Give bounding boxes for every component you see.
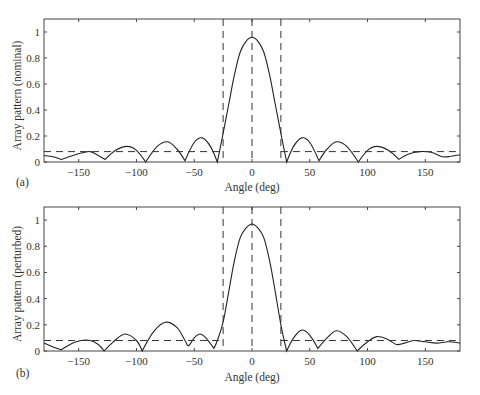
x-axis-title: Angle (deg) xyxy=(224,371,279,384)
x-tick-label: −100 xyxy=(125,355,148,367)
y-tick-label: 0 xyxy=(35,345,41,357)
y-tick-label: 0.2 xyxy=(26,130,40,142)
y-tick-label: 0.8 xyxy=(26,240,40,252)
y-tick-label: 0.8 xyxy=(26,52,40,64)
panel-b: −150−100−5005010015000.20.40.60.81Angle … xyxy=(11,207,460,384)
y-tick-label: 1 xyxy=(35,214,41,226)
y-axis-title: Array pattern (nominal) xyxy=(11,40,24,150)
y-tick-label: 0 xyxy=(35,156,41,168)
y-tick-label: 0.6 xyxy=(26,266,40,278)
x-tick-label: 50 xyxy=(304,355,316,367)
x-tick-label: 100 xyxy=(359,355,376,367)
x-tick-label: −50 xyxy=(186,355,204,367)
x-tick-label: 0 xyxy=(249,355,255,367)
chart-canvas: −150−100−5005010015000.20.40.60.81Angle … xyxy=(0,0,480,395)
panel-a: −150−100−5005010015000.20.40.60.81Angle … xyxy=(11,19,460,194)
x-tick-label: −150 xyxy=(67,166,90,178)
x-tick-label: 150 xyxy=(417,355,434,367)
panel-label: (a) xyxy=(16,176,29,189)
panel-label: (b) xyxy=(16,367,30,380)
y-tick-label: 0.6 xyxy=(26,78,40,90)
y-tick-label: 0.2 xyxy=(26,319,40,331)
x-tick-label: 150 xyxy=(417,166,434,178)
x-tick-label: −100 xyxy=(125,166,148,178)
x-tick-label: 0 xyxy=(249,166,255,178)
x-tick-label: 50 xyxy=(304,166,316,178)
y-tick-label: 0.4 xyxy=(26,293,40,305)
x-tick-label: −150 xyxy=(67,355,90,367)
y-tick-label: 1 xyxy=(35,26,41,38)
x-axis-title: Angle (deg) xyxy=(224,181,279,194)
y-axis-title: Array pattern (perturbed) xyxy=(11,226,24,342)
x-tick-label: 100 xyxy=(359,166,376,178)
y-tick-label: 0.4 xyxy=(26,104,40,116)
x-tick-label: −50 xyxy=(186,166,204,178)
